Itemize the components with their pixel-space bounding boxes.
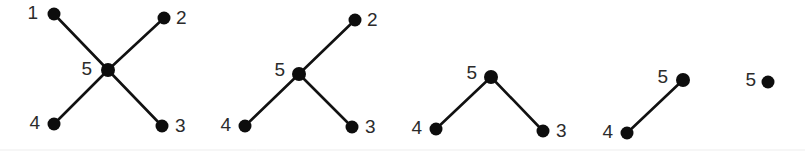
edge-3-5: [108, 70, 162, 126]
edge-4-5: [627, 80, 683, 133]
graph-3: 345: [411, 62, 566, 141]
graph-1: 12345: [27, 2, 186, 136]
node-4[interactable]: [239, 120, 252, 133]
node-5[interactable]: [292, 67, 306, 81]
node-label-3: 3: [365, 116, 376, 137]
graph-canvas: 123452345345455: [0, 0, 805, 157]
node-5[interactable]: [101, 63, 115, 77]
node-4[interactable]: [48, 118, 61, 131]
node-2[interactable]: [158, 12, 171, 25]
node-3[interactable]: [346, 121, 359, 134]
node-4[interactable]: [621, 127, 634, 140]
node-3[interactable]: [537, 125, 550, 138]
node-label-3: 3: [175, 115, 186, 136]
edge-3-5: [491, 77, 543, 131]
edge-2-5: [108, 18, 164, 70]
graph-5: 5: [745, 69, 774, 90]
edge-4-5: [436, 77, 491, 129]
node-label-5: 5: [466, 62, 477, 83]
node-2[interactable]: [349, 14, 362, 27]
node-1[interactable]: [48, 8, 61, 21]
node-label-5: 5: [81, 58, 92, 79]
graph-4: 45: [602, 66, 690, 142]
node-label-3: 3: [556, 120, 567, 141]
node-label-4: 4: [220, 114, 231, 135]
edge-4-5: [245, 74, 299, 126]
node-label-5: 5: [274, 59, 285, 80]
node-5[interactable]: [676, 73, 690, 87]
node-label-2: 2: [367, 9, 378, 30]
node-3[interactable]: [156, 120, 169, 133]
node-5[interactable]: [762, 76, 775, 89]
node-5[interactable]: [484, 70, 498, 84]
graph-2: 2345: [220, 9, 377, 137]
node-4[interactable]: [430, 123, 443, 136]
node-label-5: 5: [745, 69, 756, 90]
node-label-4: 4: [29, 112, 40, 133]
node-label-1: 1: [27, 2, 38, 23]
edge-2-5: [299, 20, 355, 74]
node-label-5: 5: [657, 66, 668, 87]
node-label-4: 4: [602, 121, 613, 142]
edge-3-5: [299, 74, 352, 127]
node-label-4: 4: [411, 117, 422, 138]
graph-sequence-figure: 123452345345455: [0, 0, 805, 157]
node-label-2: 2: [176, 7, 187, 28]
